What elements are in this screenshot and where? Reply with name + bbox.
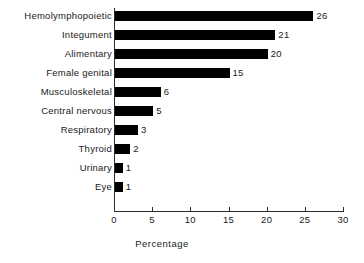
bar xyxy=(115,49,268,59)
bar-value-label: 26 xyxy=(316,11,327,21)
bar-value-label: 21 xyxy=(278,30,289,40)
x-axis-tick xyxy=(229,207,230,212)
category-label: Female genital xyxy=(46,68,112,78)
bar xyxy=(115,163,123,173)
x-axis-title: Percentage xyxy=(0,238,364,249)
x-axis-tick xyxy=(114,207,115,212)
category-label: Integument xyxy=(62,30,112,40)
x-axis-tick xyxy=(190,207,191,212)
bar xyxy=(115,68,230,78)
x-axis-tick xyxy=(343,207,344,212)
x-axis-tick xyxy=(152,207,153,212)
category-label: Hemolymphopoietic xyxy=(24,11,112,21)
bar-value-label: 2 xyxy=(133,144,139,154)
x-axis-tick-label: 10 xyxy=(185,214,196,225)
category-label: Musculoskeletal xyxy=(41,87,112,97)
bar-value-label: 15 xyxy=(233,68,244,78)
x-axis-tick xyxy=(305,207,306,212)
bar-chart: Hemolymphopoietic Integument Alimentary … xyxy=(0,0,364,263)
x-axis-tick-label: 5 xyxy=(149,214,155,225)
x-axis-tick-label: 20 xyxy=(261,214,272,225)
bar-value-label: 1 xyxy=(126,163,132,173)
bar xyxy=(115,144,130,154)
bar xyxy=(115,182,123,192)
bar-value-label: 6 xyxy=(164,87,170,97)
x-axis-tick-label: 30 xyxy=(337,214,348,225)
bar xyxy=(115,87,161,97)
bar xyxy=(115,125,138,135)
x-axis-title-text: Percentage xyxy=(135,238,189,249)
bar xyxy=(115,106,153,116)
category-label: Urinary xyxy=(80,163,112,173)
bar xyxy=(115,30,275,40)
x-axis-tick-label: 15 xyxy=(223,214,234,225)
bar xyxy=(115,11,313,21)
bar-value-label: 20 xyxy=(271,49,282,59)
y-axis-line xyxy=(114,8,115,212)
category-label: Respiratory xyxy=(61,125,112,135)
bar-value-label: 3 xyxy=(141,125,147,135)
x-axis-tick-label: 25 xyxy=(299,214,310,225)
category-label: Central nervous xyxy=(41,106,112,116)
x-axis-tick xyxy=(267,207,268,212)
category-label: Thyroid xyxy=(79,144,112,154)
x-axis-tick-label: 0 xyxy=(111,214,117,225)
category-label: Eye xyxy=(95,182,112,192)
bar-value-label: 5 xyxy=(156,106,162,116)
bar-value-label: 1 xyxy=(126,182,132,192)
category-label: Alimentary xyxy=(65,49,112,59)
